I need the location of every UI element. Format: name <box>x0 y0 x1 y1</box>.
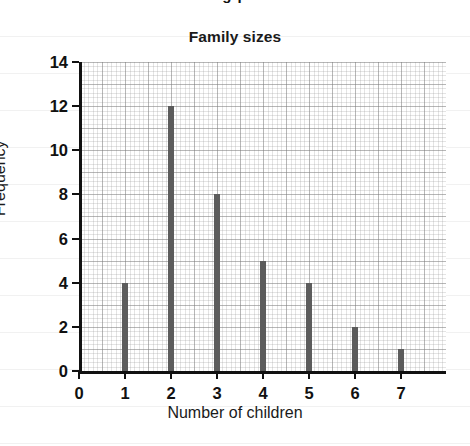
x-axis-label: Number of children <box>0 404 470 422</box>
y-axis-tick-label-14: 14 <box>50 53 68 72</box>
bar-5 <box>306 283 312 371</box>
x-axis-tick-6 <box>354 371 356 379</box>
x-axis-tick-5 <box>308 371 310 379</box>
x-axis-tick-label-5: 5 <box>304 384 313 403</box>
x-axis-tick-4 <box>262 371 264 379</box>
bar-1 <box>122 283 128 371</box>
bar-2 <box>168 106 174 371</box>
x-axis-tick-2 <box>170 371 172 379</box>
bar-3 <box>214 194 220 371</box>
bar-4 <box>260 261 266 371</box>
y-axis-tick-6 <box>72 238 79 240</box>
y-axis-tick-label-12: 12 <box>50 97 68 116</box>
y-axis-tick-label-8: 8 <box>59 185 68 204</box>
y-axis-label: Frequency <box>0 140 9 216</box>
x-axis-tick-label-7: 7 <box>396 384 405 403</box>
x-axis-tick-3 <box>216 371 218 379</box>
x-axis-tick-label-4: 4 <box>258 384 267 403</box>
x-axis-tick-label-2: 2 <box>166 384 175 403</box>
y-axis-tick-label-4: 4 <box>59 273 68 292</box>
y-axis-tick-label-10: 10 <box>50 141 68 160</box>
y-axis-tick-10 <box>72 149 79 151</box>
y-axis-tick-14 <box>72 61 79 63</box>
y-axis-tick-8 <box>72 193 79 195</box>
y-axis-line <box>79 62 82 371</box>
x-axis-tick-0 <box>78 371 80 379</box>
x-axis-tick-label-6: 6 <box>350 384 359 403</box>
x-axis-tick-label-0: 0 <box>74 384 83 403</box>
y-axis-tick-label-6: 6 <box>59 229 68 248</box>
x-axis-tick-label-1: 1 <box>120 384 129 403</box>
y-axis-tick-12 <box>72 105 79 107</box>
plot-area: 0 2 4 6 8 10 12 14 0 1 2 3 4 5 6 7 <box>79 62 446 371</box>
bar-6 <box>352 327 358 371</box>
bar-7 <box>398 349 404 371</box>
x-axis-tick-1 <box>124 371 126 379</box>
bar-chart-figure: Family sizes 0 2 4 6 8 10 12 14 0 1 2 <box>0 0 470 446</box>
y-axis-tick-label-2: 2 <box>59 317 68 336</box>
x-axis-tick-label-3: 3 <box>212 384 221 403</box>
chart-title: Family sizes <box>0 28 470 46</box>
x-axis-tick-7 <box>400 371 402 379</box>
y-axis-tick-2 <box>72 326 79 328</box>
y-axis-tick-4 <box>72 282 79 284</box>
y-axis-tick-label-0: 0 <box>59 362 68 381</box>
